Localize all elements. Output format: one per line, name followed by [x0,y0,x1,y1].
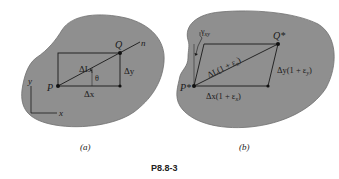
figure-id-label: P8.8-3 [151,163,178,173]
caption-a: (a) [80,142,91,152]
label-n: n [141,38,146,48]
label-delta-y: Δy [124,66,135,76]
panel-a: P Q n ΔL θ Δy Δx y x (a) [22,15,164,152]
point-q-star-dot [276,42,280,46]
figure-canvas: P Q n ΔL θ Δy Δx y x (a) P* Q* γxy [0,0,339,179]
label-delta-x: Δx [84,89,95,99]
point-p-dot [56,84,60,88]
label-delta-l: ΔL [79,64,90,74]
caption-b: (b) [239,142,250,152]
label-axis-y: y [27,76,32,86]
corner-dot [118,84,121,87]
body-undeformed [22,15,164,127]
panel-b: P* Q* γxy ΔL(1 + εn) Δy(1 + εy) Δx(1 + ε… [177,11,334,152]
point-p-star-dot [192,84,196,88]
label-theta: θ [95,74,99,83]
label-q-star: Q* [273,30,285,41]
label-q: Q [115,39,123,50]
label-axis-x: x [58,108,63,118]
corner-star-dot [266,84,269,87]
label-p-star: P* [179,82,191,93]
point-q-dot [118,51,122,55]
label-p: P [46,82,53,93]
